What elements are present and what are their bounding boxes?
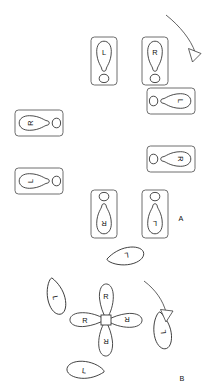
inner-foot-letter: R (103, 337, 108, 346)
card-letter: R (152, 48, 157, 57)
outer-foot-right[interactable]: L (152, 311, 174, 350)
card-0-left-up[interactable]: L (91, 37, 117, 85)
card-letter: L (26, 179, 35, 183)
inner-foot-down[interactable]: R (99, 322, 113, 357)
outer-foot-top[interactable]: L (106, 245, 145, 267)
card-letter: R (176, 156, 185, 161)
card-letter: R (26, 120, 35, 125)
pinwheel-hub[interactable] (101, 315, 111, 325)
outer-foot-left[interactable]: L (44, 276, 68, 316)
inner-foot-left[interactable]: R (70, 313, 105, 327)
inner-foot-letter: R (124, 315, 129, 324)
card-3-right-rot90[interactable]: R (147, 146, 195, 172)
card-4-left-rot180[interactable]: L (142, 190, 168, 238)
pinwheel-group: R R R (70, 284, 142, 356)
panel-label-a: A (179, 214, 184, 223)
outer-foot-bottom[interactable]: L (66, 360, 105, 381)
card-6-left-rot270[interactable]: L (15, 168, 63, 194)
inner-foot-letter: R (103, 292, 108, 301)
inner-foot-right[interactable]: R (108, 313, 143, 327)
card-7-right-rot270[interactable]: R (15, 110, 63, 136)
card-2-left-rot90[interactable]: L (147, 88, 195, 114)
panel-b: R R R (44, 245, 185, 383)
panel-a: L R L R (15, 15, 201, 238)
card-letter: L (153, 219, 157, 228)
inner-foot-up[interactable]: R (99, 284, 113, 319)
card-1-right-up[interactable]: R (142, 37, 168, 85)
rotation-arrow-a-icon (166, 15, 201, 62)
card-5-right-rot180[interactable]: R (91, 190, 117, 238)
figure-canvas: L R L R (0, 0, 210, 392)
figure-root: L R L R (0, 0, 210, 392)
card-letter: L (176, 99, 185, 103)
inner-foot-letter: R (82, 316, 87, 325)
panel-label-b: B (180, 374, 185, 383)
card-letter: L (102, 48, 106, 57)
card-letter: R (101, 219, 106, 228)
footprint-blob (99, 284, 113, 319)
